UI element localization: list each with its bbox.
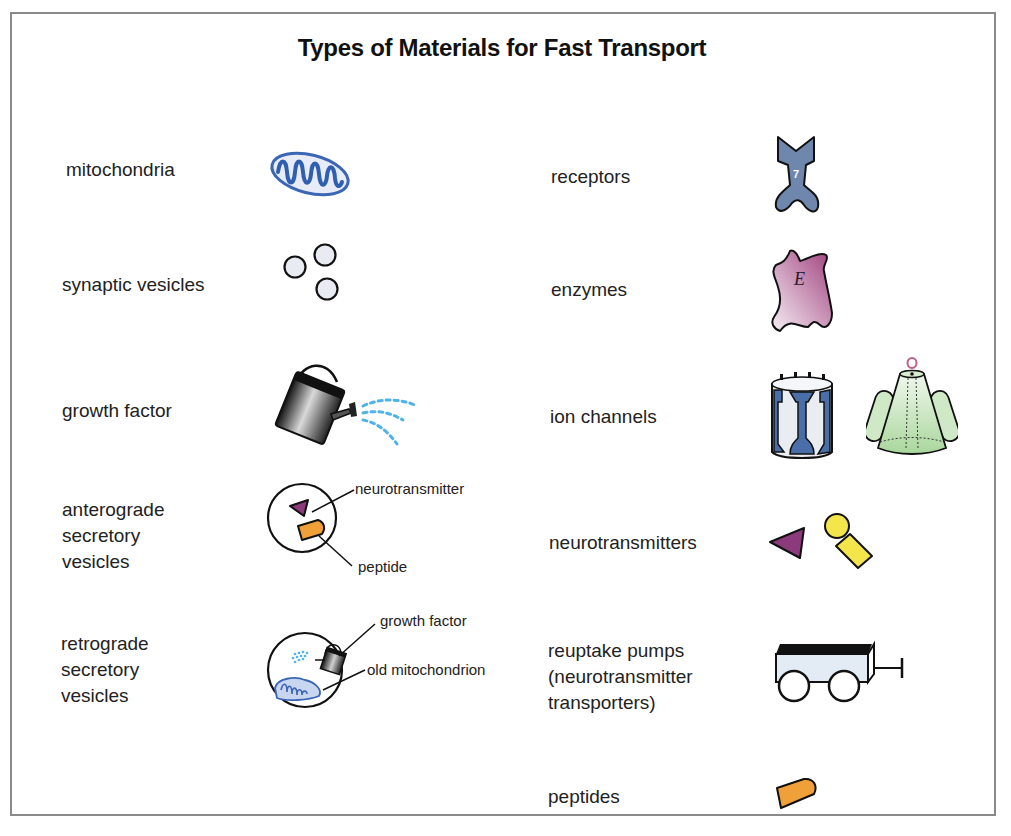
label-ion-channels: ion channels [550,404,657,430]
callout-peptide: peptide [358,558,407,575]
ion-channel-barrel-icon [770,372,834,462]
mitochondrion-icon [268,150,352,198]
label-neurotransmitters: neurotransmitters [549,530,697,556]
callout-neurotransmitter: neurotransmitter [355,480,464,497]
peptide-icon [774,776,820,812]
wagon-icon [772,640,908,704]
label-anterograde-vesicles: anterograde secretory vesicles [62,497,164,575]
label-retrograde-vesicles: retrograde secretory vesicles [61,631,149,709]
label-growth-factor: growth factor [62,398,172,424]
label-mitochondria: mitochondria [66,157,175,183]
ion-channel-cone-icon [866,356,958,460]
synaptic-vesicles-icon [280,240,344,304]
diagram-title: Types of Materials for Fast Transport [12,34,992,62]
receptor-icon: 7 [770,133,824,217]
label-enzymes: enzymes [551,277,627,303]
enzyme-icon: E [768,243,838,335]
watering-can-icon [265,358,425,450]
receptor-label: 7 [793,168,799,180]
label-reuptake-pumps: reuptake pumps (neurotransmitter transpo… [548,638,693,716]
anterograde-vesicle-icon [262,476,362,576]
label-peptides: peptides [548,784,620,810]
callout-old-mitochondrion: old mitochondrion [367,661,485,678]
neurotransmitter-icon [768,512,884,572]
label-receptors: receptors [551,164,630,190]
enzyme-label: E [793,269,805,289]
label-synaptic-vesicles: synaptic vesicles [62,272,205,298]
callout-growth-factor: growth factor [380,612,467,629]
